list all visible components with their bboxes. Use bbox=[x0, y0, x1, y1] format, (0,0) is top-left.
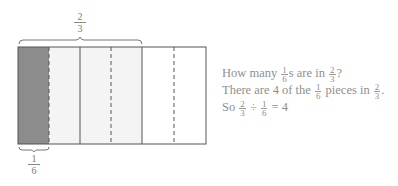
equation-line: So 23 ÷ 16 = 4 bbox=[222, 100, 384, 117]
fraction: 16 bbox=[281, 66, 288, 83]
question-line: How many 16s are in 23? bbox=[222, 66, 384, 83]
explanation-text: How many 16s are in 23? There are 4 of t… bbox=[222, 66, 384, 117]
fraction: 23 bbox=[239, 100, 246, 117]
answer-line: There are 4 of the 16 pieces in 23. bbox=[222, 83, 384, 100]
fraction: 23 bbox=[374, 83, 381, 100]
fraction: 16 bbox=[315, 83, 322, 100]
bottom-brace bbox=[19, 147, 49, 152]
fraction: 16 bbox=[261, 100, 268, 117]
top-brace bbox=[19, 37, 142, 44]
dark-shaded-piece bbox=[18, 47, 49, 144]
fraction: 23 bbox=[329, 66, 336, 83]
two-thirds-label: 2 3 bbox=[74, 12, 86, 34]
light-shaded-pieces bbox=[49, 47, 142, 144]
one-sixth-label: 1 6 bbox=[28, 154, 40, 176]
